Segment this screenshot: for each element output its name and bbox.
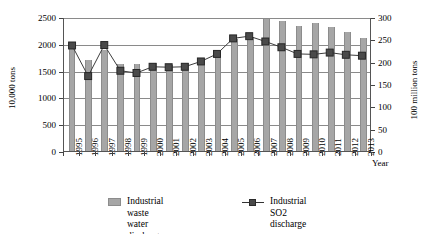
legend-label-so2: Industrial SO2 discharge — [270, 196, 306, 231]
y-axis-left-tick-label: 500 — [43, 121, 57, 130]
y-axis-left-title: 10,000 tons — [7, 67, 17, 109]
x-axis-tick-mark — [322, 152, 323, 156]
y-axis-right-tick-mark — [371, 18, 375, 19]
y-axis-right-tick-mark — [371, 85, 375, 86]
x-axis-tick-mark — [225, 152, 226, 156]
y-axis-right-tick-label: 150 — [378, 81, 392, 90]
x-axis-tick-mark — [371, 152, 372, 156]
data-point-marker — [69, 42, 76, 49]
y-axis-right-tick-label: 250 — [378, 36, 392, 45]
x-axis-tick-mark — [95, 152, 96, 156]
chart-container: 10,000 tons 100 million tons Year 050010… — [0, 0, 428, 234]
data-point-marker — [326, 49, 333, 56]
x-axis-tick-mark — [160, 152, 161, 156]
data-point-marker — [358, 52, 365, 59]
x-axis-tick-mark — [112, 152, 113, 156]
y-axis-left-tick-label: 2500 — [38, 14, 56, 23]
y-axis-right-tick-label: 50 — [378, 125, 387, 134]
y-axis-left-tick-mark — [59, 45, 63, 46]
y-axis-left-tick-label: 0 — [52, 148, 57, 157]
data-point-marker — [246, 33, 253, 40]
x-axis-tick-mark — [63, 152, 64, 156]
legend-label-waste-water: Industrial waste water discharge — [127, 196, 163, 234]
x-axis-tick-mark — [274, 152, 275, 156]
y-axis-right-tick-mark — [371, 107, 375, 108]
data-point-marker — [262, 38, 269, 45]
y-axis-right-tick-mark — [371, 40, 375, 41]
data-point-marker — [101, 42, 108, 49]
y-axis-right-tick-label: 300 — [378, 14, 392, 23]
plot-area — [63, 18, 371, 152]
y-axis-right-tick-mark — [371, 63, 375, 64]
y-axis-left-tick-mark — [59, 125, 63, 126]
y-axis-left-tick-mark — [59, 98, 63, 99]
data-point-marker — [230, 35, 237, 42]
line-marker-swatch-icon — [242, 197, 264, 208]
data-point-marker — [181, 63, 188, 70]
y-axis-left-tick-mark — [59, 72, 63, 73]
data-point-marker — [310, 51, 317, 58]
x-axis-tick-mark — [241, 152, 242, 156]
y-axis-right-tick-label: 100 — [378, 103, 392, 112]
data-point-marker — [133, 70, 140, 77]
data-point-marker — [149, 63, 156, 70]
y-axis-right-title: 100 million tons — [409, 60, 419, 119]
y-axis-right-tick-label: 0 — [378, 148, 383, 157]
data-point-marker — [278, 44, 285, 51]
x-axis-tick-mark — [306, 152, 307, 156]
x-axis-tick-mark — [128, 152, 129, 156]
x-axis-tick-mark — [79, 152, 80, 156]
data-point-marker — [294, 50, 301, 57]
y-axis-right-tick-label: 200 — [378, 58, 392, 67]
x-axis-tick-mark — [339, 152, 340, 156]
y-axis-right-tick-mark — [371, 130, 375, 131]
x-axis-tick-mark — [258, 152, 259, 156]
y-axis-left-tick-label: 2000 — [38, 40, 56, 49]
y-axis-left-tick-mark — [59, 18, 63, 19]
legend-item-waste-water: Industrial waste water discharge — [108, 196, 163, 234]
line-series — [64, 18, 370, 151]
x-axis-title: Year — [372, 158, 389, 168]
x-axis-tick-mark — [144, 152, 145, 156]
data-point-marker — [197, 58, 204, 65]
x-axis-tick-mark — [176, 152, 177, 156]
data-point-marker — [214, 50, 221, 57]
bar-swatch-icon — [108, 198, 121, 206]
data-point-marker — [165, 64, 172, 71]
x-axis-tick-mark — [290, 152, 291, 156]
x-axis-tick-mark — [355, 152, 356, 156]
x-axis-tick-mark — [193, 152, 194, 156]
y-axis-left-tick-label: 1500 — [38, 67, 56, 76]
data-point-marker — [342, 51, 349, 58]
x-axis-tick-mark — [209, 152, 210, 156]
y-axis-left-tick-label: 1000 — [38, 94, 56, 103]
data-point-marker — [85, 73, 92, 80]
legend-item-so2: Industrial SO2 discharge — [242, 196, 306, 231]
data-point-marker — [117, 67, 124, 74]
